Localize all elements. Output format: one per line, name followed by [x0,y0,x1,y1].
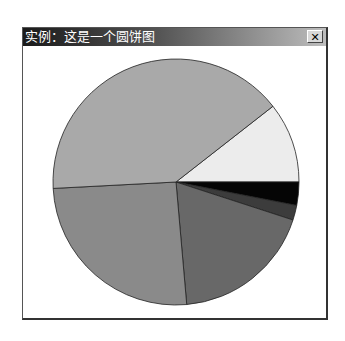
pie-slice [53,182,187,305]
pie-chart [0,0,345,341]
